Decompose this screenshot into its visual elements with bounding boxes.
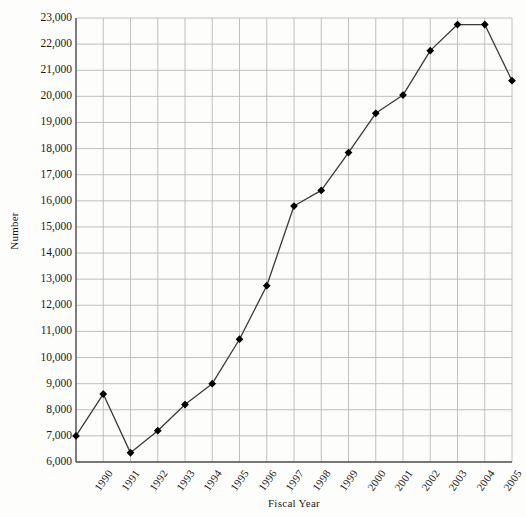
data-point: [482, 21, 488, 27]
data-point: [264, 283, 270, 289]
plot-area: [0, 0, 526, 517]
data-point: [291, 203, 297, 209]
data-point: [509, 78, 515, 84]
line-chart: Number 6,0007,0008,0009,00010,00011,0001…: [0, 0, 526, 517]
x-axis-title: Fiscal Year: [76, 497, 512, 509]
data-point: [236, 336, 242, 342]
grid-lines: [76, 18, 512, 462]
